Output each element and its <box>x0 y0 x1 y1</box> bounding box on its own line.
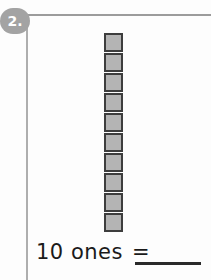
unit-cube <box>104 53 123 72</box>
unit-cube <box>104 113 123 132</box>
unit-cube <box>104 73 123 92</box>
unit-cube <box>104 33 123 52</box>
unit-cube <box>104 213 123 232</box>
unit-cube <box>104 193 123 212</box>
unit-cube <box>104 153 123 172</box>
answer-blank-field[interactable] <box>135 262 201 265</box>
problem-number-badge: 2. <box>0 8 30 34</box>
rule-line-top <box>26 14 211 16</box>
equation-row: 10 ones = <box>36 240 211 274</box>
unit-cube <box>104 133 123 152</box>
equals-sign: = <box>132 240 150 264</box>
equation-quantity-label: 10 ones <box>36 240 123 264</box>
unit-cube <box>104 93 123 112</box>
unit-cube <box>104 173 123 192</box>
unit-cube-column <box>104 33 123 232</box>
worksheet-problem: 2. 10 ones = <box>0 0 211 280</box>
rule-line-left <box>26 14 28 280</box>
